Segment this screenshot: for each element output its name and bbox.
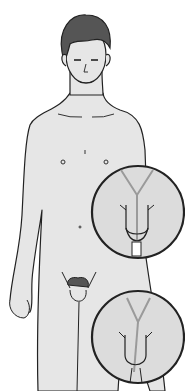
hand bbox=[10, 300, 30, 318]
inset-upper bbox=[92, 166, 184, 258]
figure-drawing bbox=[0, 0, 185, 391]
inset-lower bbox=[92, 291, 184, 383]
head bbox=[61, 15, 110, 95]
illustration bbox=[0, 0, 185, 391]
